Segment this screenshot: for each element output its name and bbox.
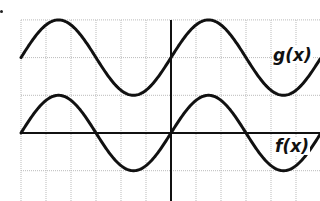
function-graph: [0, 0, 320, 201]
f-label: f(x): [274, 137, 310, 155]
g-label: g(x): [272, 46, 313, 64]
